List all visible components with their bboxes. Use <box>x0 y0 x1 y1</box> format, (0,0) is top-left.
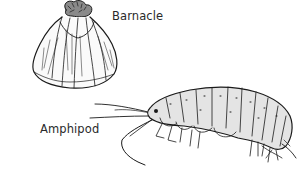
illustration-canvas <box>0 0 307 180</box>
barnacle-label: Barnacle <box>112 9 163 23</box>
amphipod-drawing <box>90 87 296 165</box>
barnacle-drawing <box>33 1 117 89</box>
amphipod-label: Amphipod <box>40 122 99 136</box>
